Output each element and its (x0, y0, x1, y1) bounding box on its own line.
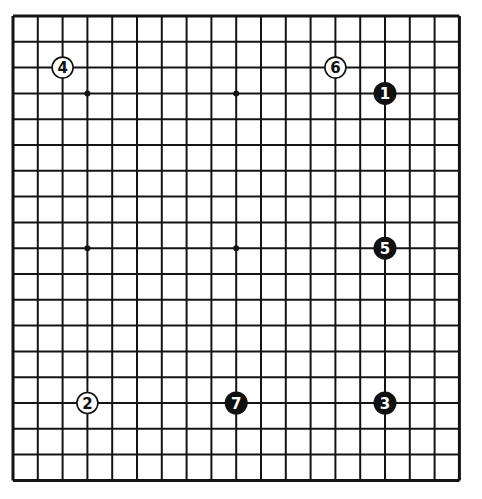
stone-white-4: 4 (52, 57, 73, 78)
stone-white-2: 2 (77, 393, 98, 414)
move-number: 5 (380, 240, 390, 258)
stone-black-7: 7 (225, 392, 248, 415)
star-point (84, 245, 90, 251)
stone-black-3: 3 (374, 392, 397, 415)
move-number: 6 (330, 59, 340, 77)
star-point (233, 245, 239, 251)
star-point (233, 90, 239, 96)
move-number: 2 (82, 395, 92, 413)
go-board-diagram: 1234567 (0, 0, 482, 499)
star-point (84, 90, 90, 96)
move-number: 4 (57, 59, 67, 77)
stone-black-1: 1 (374, 82, 397, 105)
move-number: 1 (380, 85, 390, 103)
stones-layer: 1234567 (52, 57, 396, 414)
stone-white-6: 6 (325, 57, 346, 78)
move-number: 7 (231, 395, 241, 413)
go-board: 1234567 (0, 0, 482, 499)
stone-black-5: 5 (374, 237, 397, 260)
move-number: 3 (380, 395, 390, 413)
